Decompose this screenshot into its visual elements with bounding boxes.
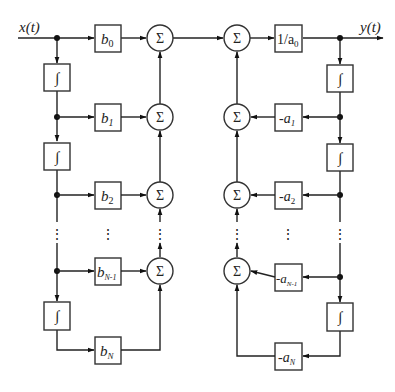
input-label: x(t): [18, 19, 40, 36]
ellipsis-icon: ⋮: [230, 227, 244, 242]
integrator-left-2: ∫: [44, 143, 70, 170]
gain-minus-aN-1: -aN-1: [275, 264, 302, 291]
summer-right-2: Σ: [224, 182, 250, 208]
output-label: y(t): [358, 19, 381, 36]
integrator-left-1: ∫: [44, 64, 70, 91]
sigma-icon: Σ: [233, 31, 241, 46]
block-diagram: x(t) y(t) ∫ ∫ ∫ b0: [0, 0, 395, 392]
summer-left-1: Σ: [147, 104, 173, 130]
integrator-right-2: ∫: [327, 144, 353, 171]
junction-dot: [54, 35, 60, 41]
summer-right-1: Σ: [224, 104, 250, 130]
gain-b2: b2: [95, 182, 121, 209]
junction-dot: [337, 35, 343, 41]
integrator-left-n: ∫: [44, 302, 70, 330]
sigma-icon: Σ: [156, 110, 164, 125]
gain-bN-1: bN-1: [95, 258, 121, 285]
summer-left-n: Σ: [147, 258, 173, 284]
sigma-icon: Σ: [233, 188, 241, 203]
figure-caption: [0, 380, 395, 392]
gain-minus-a1: -a1: [275, 104, 302, 131]
sigma-icon: Σ: [156, 188, 164, 203]
integrator-right-n: ∫: [327, 303, 353, 331]
summer-right-0: Σ: [224, 25, 250, 51]
sigma-icon: Σ: [233, 264, 241, 279]
gain-1-over-a0: 1/a0: [275, 25, 302, 52]
ellipsis-icon: ⋮: [153, 227, 167, 242]
gain-b1: b1: [95, 104, 121, 131]
summer-left-2: Σ: [147, 182, 173, 208]
ellipsis-icon: ⋮: [50, 227, 64, 242]
sigma-icon: Σ: [156, 264, 164, 279]
integrator-right-1: ∫: [327, 65, 353, 92]
gain-bN: bN: [95, 337, 121, 364]
sigma-icon: Σ: [156, 31, 164, 46]
ellipsis-icon: ⋮: [333, 227, 347, 242]
gain-minus-a2: -a2: [275, 182, 302, 209]
gain-minus-aN: -aN: [275, 343, 302, 370]
ellipsis-icon: ⋮: [101, 227, 115, 242]
gain-b0: b0: [95, 25, 121, 52]
sigma-icon: Σ: [233, 110, 241, 125]
summer-left-0: Σ: [147, 25, 173, 51]
summer-right-n: Σ: [224, 258, 250, 284]
ellipsis-row: ⋮ ⋮ ⋮ ⋮ ⋮ ⋮: [50, 227, 347, 242]
ellipsis-icon: ⋮: [281, 227, 295, 242]
